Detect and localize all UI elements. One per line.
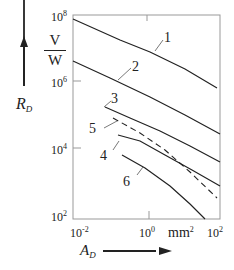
tick-base: 10 [51,143,63,157]
tick-base: 10 [51,10,63,24]
tick-exp: 0 [151,225,155,234]
chart-plot [0,0,234,270]
tick-base: 10 [51,76,63,90]
y-axis-symbol: R [16,95,26,112]
curve-1 [73,19,217,88]
leader-2 [118,68,131,80]
curve-6 [122,155,205,219]
curve-label-1: 1 [164,31,171,45]
tick-exp: 2 [63,209,67,218]
y-unit-numerator: V [44,32,66,51]
curve-label-4: 4 [100,149,107,163]
tick-exp: -2 [82,225,89,234]
y-unit-fraction: V W [44,32,66,69]
tick-exp: 8 [63,9,67,18]
y-tick-label-6: 106 [51,76,67,89]
leader-3 [104,101,111,107]
x-tick-label-2: 102 [207,226,223,239]
x-axis-label: AD [80,243,96,260]
curve-label-6: 6 [123,175,130,189]
tick-base: 10 [139,226,151,240]
y-axis-label: RD [16,96,32,114]
x-tick-label-0: 100 [139,226,155,239]
curve-label-2: 2 [132,60,139,74]
curve-label-3: 3 [111,92,118,106]
curve-label-5: 5 [89,122,96,136]
x-tick-label-m2: 10-2 [70,226,89,239]
x-axis-symbol: A [80,242,89,258]
tick-exp: 6 [63,75,67,84]
y-tick-label-4: 104 [51,143,67,156]
tick-base: 10 [207,226,219,240]
x-unit-sup: 2 [190,225,194,234]
y-unit-denominator: W [44,51,66,69]
leader-1 [155,40,163,51]
y-axis-subscript: D [26,104,33,114]
curve-4 [118,135,220,186]
plot-frame [73,15,220,219]
x-unit-label: mm2 [168,226,194,240]
y-tick-label-8: 108 [51,10,67,23]
tick-exp: 4 [63,142,67,151]
tick-base: 10 [51,210,63,224]
y-tick-label-2: 102 [51,210,67,223]
leader-6 [137,167,143,175]
x-axis-arrow-head [159,247,172,255]
tick-base: 10 [70,226,82,240]
leader-4 [113,141,119,150]
leader-5 [104,121,117,128]
x-unit-text: mm [168,225,190,240]
x-axis-subscript: D [89,250,96,260]
tick-exp: 2 [219,225,223,234]
